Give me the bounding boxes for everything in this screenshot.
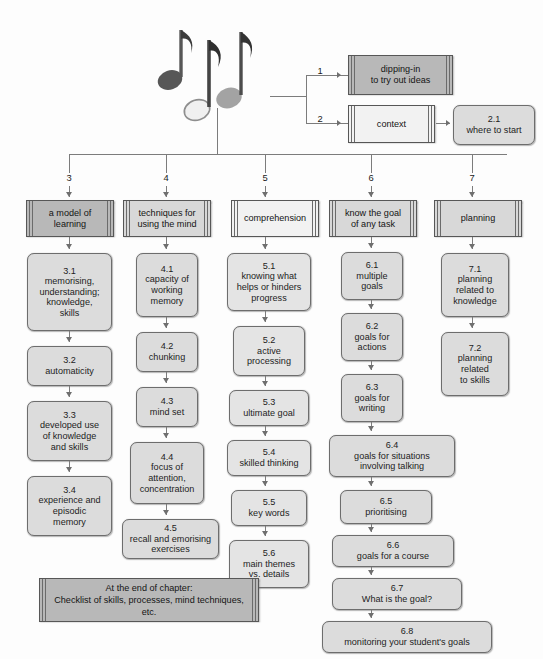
arrowhead-to-context bbox=[337, 120, 341, 126]
node-3-1[interactable]: 3.1 memorising, understanding; knowledge… bbox=[27, 253, 112, 331]
node-7-1-text: planning related to knowledge bbox=[453, 274, 496, 305]
node-6-5-num: 6.5 bbox=[365, 496, 406, 507]
branch-label-7: 7 bbox=[464, 172, 480, 183]
node-context[interactable]: context bbox=[348, 105, 435, 143]
header-col6-line1: know the goal bbox=[345, 208, 401, 218]
node-5-4[interactable]: 5.4 skilled thinking bbox=[227, 440, 311, 476]
node-6-1-num: 6.1 bbox=[356, 260, 387, 271]
node-3-4[interactable]: 3.4 experience and episodic memory bbox=[27, 476, 112, 536]
arrowhead-col5-2 bbox=[262, 381, 268, 386]
node-6-2[interactable]: 6.2 goals for actions bbox=[341, 313, 403, 361]
node-3-4-num: 3.4 bbox=[38, 485, 100, 496]
node-7-2-num: 7.2 bbox=[458, 343, 492, 354]
arrowhead-col4-1 bbox=[163, 323, 169, 328]
arrowhead-col5-1 bbox=[262, 317, 268, 322]
arrowhead-col6-7 bbox=[368, 613, 374, 618]
node-7-1-num: 7.1 bbox=[453, 264, 496, 275]
node-4-3[interactable]: 4.3 mind set bbox=[136, 387, 198, 427]
node-5-1-text: knowing what helps or hinders progress bbox=[237, 271, 302, 302]
node-3-2-num: 3.2 bbox=[45, 355, 94, 366]
header-comprehension[interactable]: comprehension bbox=[231, 200, 319, 237]
footer-line2: Checklist of skills, processes, mind tec… bbox=[54, 595, 244, 605]
node-6-6[interactable]: 6.6 goals for a course bbox=[332, 535, 454, 567]
branch-line-6 bbox=[371, 154, 372, 173]
bus-drop-from-notes bbox=[217, 108, 218, 154]
arrowhead-col5-0 bbox=[262, 244, 268, 249]
node-6-6-num: 6.6 bbox=[357, 540, 429, 551]
node-4-2-text: chunking bbox=[149, 352, 185, 362]
header-a-model-of-learning[interactable]: a model of learning bbox=[26, 200, 114, 237]
node-6-4[interactable]: 6.4 goals for situations involving talki… bbox=[329, 435, 455, 477]
node-4-5-text: recall and emorising exercises bbox=[130, 534, 211, 555]
arrowhead-branch-3 bbox=[66, 192, 72, 197]
node-3-3-text: developed use of knowledge and skills bbox=[40, 420, 99, 451]
arrowhead-col3-3 bbox=[66, 467, 72, 472]
arrowhead-col4-2 bbox=[163, 378, 169, 383]
arrowhead-col4-0 bbox=[163, 244, 169, 249]
arrowhead-col4-4 bbox=[163, 510, 169, 515]
node-5-3-text: ultimate goal bbox=[243, 408, 295, 418]
node-5-5-num: 5.5 bbox=[249, 497, 290, 508]
branch-line-7 bbox=[472, 154, 473, 173]
node-dipping-in-line2: to try out ideas bbox=[371, 75, 431, 85]
arrowhead-col6-0 bbox=[368, 243, 374, 248]
header-techniques-for-using-the-mind[interactable]: techniques for using the mind bbox=[123, 200, 211, 237]
node-4-5[interactable]: 4.5 recall and emorising exercises bbox=[122, 519, 219, 559]
node-6-8[interactable]: 6.8 monitoring your student's goals bbox=[322, 621, 492, 653]
node-7-2[interactable]: 7.2 planning related to skills bbox=[441, 332, 509, 396]
node-5-3[interactable]: 5.3 ultimate goal bbox=[229, 390, 309, 426]
node-5-3-num: 5.3 bbox=[243, 397, 295, 408]
node-5-1-num: 5.1 bbox=[237, 261, 302, 272]
node-3-2[interactable]: 3.2 automaticity bbox=[27, 346, 112, 386]
node-3-2-text: automaticity bbox=[45, 366, 94, 376]
diagram-canvas: 1 2 dipping-in to try out ideas context … bbox=[0, 0, 543, 659]
node-4-1-num: 4.1 bbox=[145, 264, 188, 275]
header-col4-line1: techniques for bbox=[138, 208, 195, 218]
header-col3-line1: a model of bbox=[49, 208, 91, 218]
node-5-6-text: main themes vs. details bbox=[243, 559, 295, 580]
arrowhead-branch-6 bbox=[368, 192, 374, 197]
node-5-5-text: key words bbox=[249, 508, 290, 518]
branch-line-4 bbox=[166, 154, 167, 173]
arrowhead-col4-3 bbox=[163, 433, 169, 438]
node-4-1[interactable]: 4.1 capacity of working memory bbox=[136, 253, 198, 317]
node-5-2[interactable]: 5.2 active processing bbox=[233, 326, 305, 376]
node-6-5[interactable]: 6.5 prioritising bbox=[340, 490, 432, 524]
arrowhead-branch-5 bbox=[262, 192, 268, 197]
node-5-4-num: 5.4 bbox=[239, 447, 298, 458]
arrowhead-col5-3 bbox=[262, 431, 268, 436]
node-6-7-num: 6.7 bbox=[362, 583, 432, 594]
node-where-to-start[interactable]: 2.1 where to start bbox=[453, 105, 535, 145]
node-3-3[interactable]: 3.3 developed use of knowledge and skill… bbox=[27, 401, 112, 461]
branch-line-3 bbox=[69, 154, 70, 173]
arrowhead-col6-4 bbox=[368, 481, 374, 486]
header-col7-label: planning bbox=[454, 213, 502, 224]
node-5-1[interactable]: 5.1 knowing what helps or hinders progre… bbox=[227, 253, 311, 311]
node-4-4-num: 4.4 bbox=[140, 452, 195, 463]
header-know-the-goal-of-any-task[interactable]: know the goal of any task bbox=[329, 200, 417, 237]
node-4-1-text: capacity of working memory bbox=[145, 274, 188, 305]
node-6-3[interactable]: 6.3 goals for writing bbox=[341, 374, 403, 422]
node-4-2[interactable]: 4.2 chunking bbox=[136, 332, 198, 372]
node-7-1[interactable]: 7.1 planning related to knowledge bbox=[441, 253, 509, 317]
node-5-5[interactable]: 5.5 key words bbox=[231, 490, 307, 526]
node-4-3-num: 4.3 bbox=[150, 396, 184, 407]
node-6-1[interactable]: 6.1 multiple goals bbox=[341, 252, 403, 300]
node-6-3-text: goals for writing bbox=[355, 393, 390, 414]
arrowhead-branch-4 bbox=[163, 192, 169, 197]
arrowhead-col7-0 bbox=[469, 244, 475, 249]
footer-line1: At the end of chapter: bbox=[106, 583, 193, 593]
node-dipping-in[interactable]: dipping-in to try out ideas bbox=[348, 55, 453, 95]
branch-line-5 bbox=[265, 154, 266, 173]
node-4-4[interactable]: 4.4 focus of attention, concentration bbox=[130, 442, 204, 504]
header-planning[interactable]: planning bbox=[434, 200, 522, 237]
node-6-7[interactable]: 6.7 What is the goal? bbox=[332, 578, 462, 610]
connector-label-1: 1 bbox=[314, 65, 326, 76]
connector-split-vertical bbox=[306, 75, 307, 123]
arrowhead-col3-1 bbox=[66, 337, 72, 342]
node-5-2-num: 5.2 bbox=[247, 335, 291, 346]
connector-note-to-split bbox=[270, 96, 307, 97]
node-6-2-text: goals for actions bbox=[355, 332, 390, 353]
arrowhead-col6-1 bbox=[368, 304, 374, 309]
node-4-3-text: mind set bbox=[150, 407, 184, 417]
